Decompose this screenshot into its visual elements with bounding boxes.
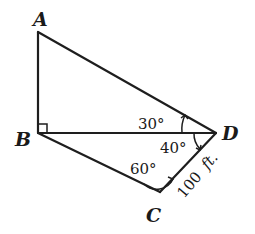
angle-label-bdc: 40° <box>160 139 187 157</box>
angle-label-adb: 30° <box>138 115 165 133</box>
vertex-label-a: A <box>31 8 48 30</box>
geometry-diagram: A B C D 30° 40° 60° 100 ft. <box>0 0 255 234</box>
vertex-label-b: B <box>14 128 31 150</box>
angle-arc-bcd <box>144 179 173 189</box>
length-unit: ft. <box>197 149 222 174</box>
segment-ad <box>38 32 216 133</box>
right-angle-marker-b <box>38 124 47 133</box>
vertex-label-c: C <box>146 204 161 226</box>
vertex-label-d: D <box>221 122 239 144</box>
angle-label-bcd: 60° <box>130 160 157 178</box>
angle-arc-bdc <box>194 133 200 149</box>
